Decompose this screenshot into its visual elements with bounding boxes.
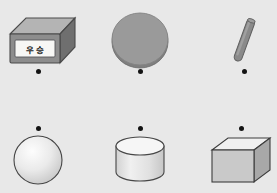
- box-label-text: 우 승: [26, 45, 45, 55]
- marker-dot-cube[interactable]: [239, 126, 244, 131]
- sphere-shape[interactable]: [0, 134, 92, 193]
- rod-body: [233, 18, 256, 62]
- object-cell-cube[interactable]: [198, 134, 277, 193]
- sphere-svg: [0, 134, 92, 192]
- disc-shape[interactable]: [96, 8, 188, 104]
- object-cell-rod[interactable]: [198, 8, 277, 104]
- cylinder-svg: [96, 134, 188, 192]
- cylinder-top-face: [116, 137, 164, 155]
- marker-dot-cylinder[interactable]: [138, 126, 143, 131]
- cube-shape[interactable]: [198, 134, 277, 193]
- box-svg: 우 승: [0, 8, 92, 104]
- rod-shape[interactable]: [198, 8, 277, 104]
- rod-body-group: [233, 18, 256, 62]
- shape-scene: 우 승: [0, 0, 277, 193]
- rod-svg: [198, 8, 277, 104]
- object-cell-cylinder[interactable]: [96, 134, 188, 193]
- object-cell-disc[interactable]: [96, 8, 188, 104]
- marker-dot-rod[interactable]: [242, 69, 247, 74]
- object-cell-box[interactable]: 우 승: [0, 8, 92, 104]
- box-shape[interactable]: 우 승: [0, 8, 92, 104]
- marker-dot-sphere[interactable]: [36, 126, 41, 131]
- object-cell-sphere[interactable]: [0, 134, 92, 193]
- disc-top-face: [112, 13, 168, 65]
- sphere-body: [14, 136, 62, 184]
- disc-svg: [96, 8, 188, 104]
- cube-front-face: [212, 150, 254, 182]
- marker-dot-disc[interactable]: [138, 69, 143, 74]
- marker-dot-box[interactable]: [36, 69, 41, 74]
- cylinder-shape[interactable]: [96, 134, 188, 193]
- cube-svg: [198, 134, 277, 192]
